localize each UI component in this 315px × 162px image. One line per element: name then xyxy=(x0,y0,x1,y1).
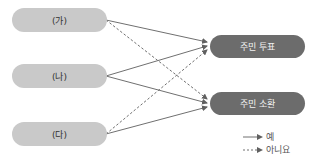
legend-yes-label: 예 xyxy=(266,130,274,143)
source-node-na: (나) xyxy=(12,64,107,88)
target-node-recall: 주민 소환 xyxy=(210,92,305,115)
source-node-label: (다) xyxy=(52,128,67,141)
target-node-vote: 주민 투표 xyxy=(210,35,305,58)
source-node-label: (나) xyxy=(52,70,67,83)
solid-arrow-icon xyxy=(243,134,263,140)
legend-no-label: 아니요 xyxy=(266,143,290,156)
legend-no: 아니요 xyxy=(243,143,290,156)
edge-ga-to-recall xyxy=(106,20,207,99)
edge-na-to-vote xyxy=(106,46,207,76)
legend-yes: 예 xyxy=(243,130,274,143)
edge-na-to-recall xyxy=(106,76,207,103)
edge-ga-to-vote xyxy=(106,20,207,42)
target-node-label: 주민 소환 xyxy=(240,97,275,110)
source-node-label: (가) xyxy=(52,14,67,27)
target-node-label: 주민 투표 xyxy=(240,40,275,53)
source-node-da: (다) xyxy=(12,122,107,146)
source-node-ga: (가) xyxy=(12,8,107,32)
dashed-arrow-icon xyxy=(243,147,263,153)
edge-da-to-vote xyxy=(106,50,207,134)
edge-da-to-recall xyxy=(106,107,207,134)
